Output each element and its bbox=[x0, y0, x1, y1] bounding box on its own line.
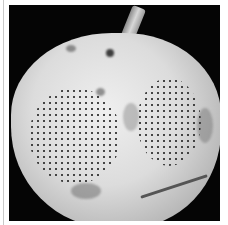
border-line bbox=[3, 0, 4, 225]
apple bbox=[11, 33, 220, 221]
photo-frame bbox=[9, 5, 220, 221]
dot-pattern-left bbox=[29, 88, 121, 184]
blemish bbox=[106, 49, 114, 57]
dot-pattern-right bbox=[137, 78, 201, 166]
blemish bbox=[66, 45, 76, 52]
blemish bbox=[71, 183, 101, 199]
